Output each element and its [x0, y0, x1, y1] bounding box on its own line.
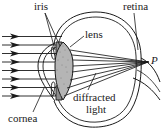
label-point-p: P: [151, 55, 158, 66]
label-diffracted: diffracted: [73, 92, 116, 103]
incoming-light-rays: [2, 37, 62, 97]
leader-line-cornea: [33, 88, 44, 112]
light-ray-arrowheads: [10, 34, 20, 100]
cornea-outer-arc: [38, 43, 55, 101]
label-cornea: cornea: [8, 113, 37, 124]
label-lens: lens: [85, 29, 103, 40]
leader-line-lens: [70, 36, 84, 47]
cornea-outline: [38, 43, 56, 101]
eye-diffraction-diagram: iris retina lens P diffracted light corn…: [0, 0, 164, 134]
label-iris: iris: [34, 1, 48, 12]
label-retina: retina: [123, 1, 148, 12]
converging-rays: [64, 50, 148, 96]
label-light: light: [86, 104, 106, 115]
